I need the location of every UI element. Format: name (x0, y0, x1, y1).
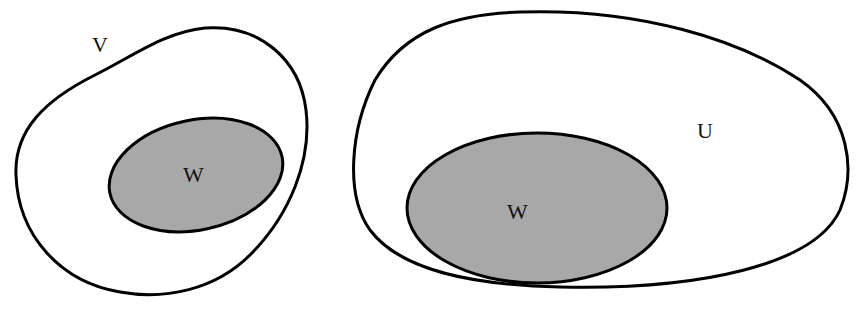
label-w-right: W (507, 201, 528, 223)
label-w-left: W (183, 164, 204, 186)
set-w-right (407, 133, 667, 283)
diagram-svg (0, 0, 857, 313)
label-u: U (697, 120, 713, 142)
diagram-canvas: V W U W (0, 0, 857, 313)
label-v: V (92, 34, 108, 56)
